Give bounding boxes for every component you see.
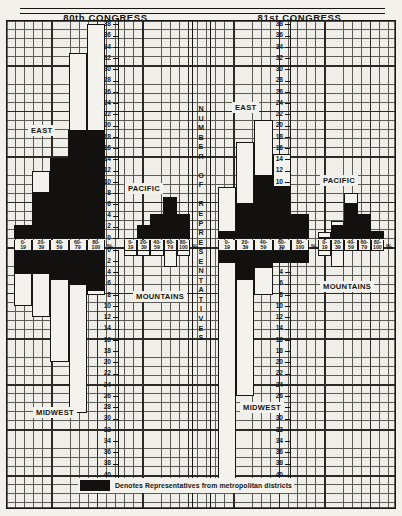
y-axis-tickmark <box>285 58 291 59</box>
y-axis-tickmark <box>113 340 119 341</box>
y-axis-tickmark <box>113 227 119 228</box>
legend: Denotes Representatives from metropolita… <box>78 478 294 493</box>
y-axis-tickmark <box>285 182 291 183</box>
y-axis-tick-label: 22 <box>98 370 111 377</box>
y-axis-tick-label: 12 <box>98 167 111 174</box>
baseline <box>218 250 309 251</box>
metropolitan-segment <box>14 225 33 238</box>
x-axis-unit-percent: % <box>192 243 198 250</box>
y-axis-tick-label: 38 <box>270 460 283 467</box>
y-axis-tick-label: 26 <box>270 89 283 96</box>
y-axis-tickmark <box>113 475 119 476</box>
y-axis-tickmark <box>113 272 119 273</box>
metropolitan-segment <box>68 130 87 239</box>
y-axis-tick-label: 24 <box>270 100 283 107</box>
y-axis-tickmark <box>285 419 291 420</box>
y-axis-tick-label: 30 <box>98 415 111 422</box>
y-axis-tick-label: 20 <box>98 122 111 129</box>
y-axis-tickmark <box>113 374 119 375</box>
y-axis-tickmark <box>285 47 291 48</box>
y-axis-tickmark <box>113 317 119 318</box>
y-axis-tick-label: 28 <box>98 77 111 84</box>
y-axis-tickmark <box>285 227 291 228</box>
x-axis-label-0-19: 0-19 <box>124 240 137 251</box>
y-axis-tick-label: 16 <box>270 337 283 344</box>
baseline <box>318 250 384 251</box>
y-axis-tick-label: 30 <box>270 66 283 73</box>
y-axis-tick-label: 0 <box>270 235 283 242</box>
y-axis-tick-label: 22 <box>270 111 283 118</box>
y-axis-tick-label: 32 <box>270 55 283 62</box>
y-axis-tick-label: 28 <box>270 77 283 84</box>
y-axis-title-letter: E <box>193 324 209 334</box>
metropolitan-segment <box>32 192 51 239</box>
metropolitan-segment <box>176 214 190 238</box>
metropolitan-segment <box>290 250 309 263</box>
y-axis-tick-label: 12 <box>270 167 283 174</box>
histogram-bar <box>236 250 254 396</box>
y-axis-tickmark <box>113 137 119 138</box>
y-axis-tick-label: 36 <box>98 32 111 39</box>
y-axis-title-letter: R <box>193 228 209 238</box>
y-axis-tickmark <box>285 171 291 172</box>
region-label-midwest: MIDWEST <box>240 402 284 413</box>
y-axis-tick-label: 14 <box>270 325 283 332</box>
y-axis-tick-label: 8 <box>98 292 111 299</box>
x-axis-label-60-79: 60-79 <box>164 240 177 251</box>
region-label-pacific: PACIFIC <box>125 183 163 194</box>
y-axis-title-letter: I <box>193 304 209 314</box>
y-axis-tick-label: 36 <box>270 449 283 456</box>
y-axis-tick-label: 6 <box>270 201 283 208</box>
y-axis-tickmark <box>113 36 119 37</box>
y-axis-tickmark <box>113 148 119 149</box>
y-axis-title-letter: E <box>193 209 209 219</box>
y-axis-tick-label: 0 <box>98 247 111 254</box>
y-axis-tickmark <box>285 306 291 307</box>
y-axis-tick-label: 8 <box>98 190 111 197</box>
y-axis-tickmark <box>285 250 291 251</box>
y-axis-tickmark <box>285 159 291 160</box>
y-axis-tickmark <box>285 329 291 330</box>
histogram-bar <box>344 193 357 238</box>
y-axis-tickmark <box>285 137 291 138</box>
y-axis-tick-label: 8 <box>270 190 283 197</box>
y-axis-tickmark <box>113 250 119 251</box>
histogram-bar <box>32 171 50 238</box>
histogram-bar <box>69 53 87 238</box>
y-axis-tick-label: 18 <box>270 348 283 355</box>
y-axis-title-number-of-representatives: NUMBER OF REPRESENTATIVES <box>193 104 209 343</box>
y-axis-tick-label: 32 <box>270 427 283 434</box>
y-axis-title-letter: V <box>193 314 209 324</box>
y-axis-tick-label: 22 <box>98 111 111 118</box>
y-axis-tick-label: 2 <box>270 223 283 230</box>
y-axis-tickmark <box>113 58 119 59</box>
y-axis-tickmark <box>113 306 119 307</box>
y-axis-title-letter: O <box>193 171 209 181</box>
y-axis-tickmark <box>113 81 119 82</box>
y-axis-tickmark <box>285 340 291 341</box>
y-axis-tick-label: 34 <box>270 438 283 445</box>
x-axis-label-80-100: 80-100 <box>177 240 190 251</box>
y-axis-tickmark <box>285 351 291 352</box>
y-axis-tickmark <box>113 69 119 70</box>
y-axis-tick-label: 20 <box>98 359 111 366</box>
metropolitan-segment <box>236 203 255 239</box>
y-axis-title-letter: E <box>193 142 209 152</box>
y-axis-tick-label: 22 <box>270 370 283 377</box>
y-axis-tick-label: 24 <box>270 382 283 389</box>
y-axis-tick-label: 16 <box>98 337 111 344</box>
y-axis-tickmark <box>285 24 291 25</box>
congress-title-81st: 81st CONGRESS <box>212 12 387 23</box>
y-axis-tickmark <box>285 69 291 70</box>
y-axis-tickmark <box>285 430 291 431</box>
y-axis-tickmark <box>285 103 291 104</box>
histogram-bar <box>291 216 309 238</box>
y-axis-tickmark <box>285 272 291 273</box>
y-axis-tickmark <box>285 374 291 375</box>
histogram-bar <box>218 250 236 480</box>
y-axis-tick-label: 0 <box>270 247 283 254</box>
histogram-bar <box>14 250 32 306</box>
histogram-bar <box>331 221 344 238</box>
x-axis-label-20-39: 20-39 <box>137 240 150 251</box>
y-axis-tickmark <box>285 114 291 115</box>
